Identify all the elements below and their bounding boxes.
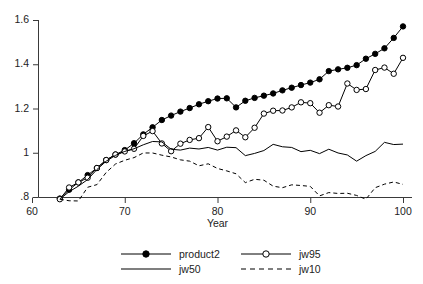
y-axis-ticks [33,21,39,198]
series-line-jw50 [60,141,403,199]
data-point-product2 [168,113,173,118]
x-tick-label: 60 [12,205,52,217]
data-series-group [57,24,406,202]
x-tick-label: 100 [383,205,423,217]
legend-row: product2 jw95 [120,246,350,261]
data-point-product2 [326,68,331,73]
data-point-jw95 [187,137,192,142]
data-point-jw95 [317,110,322,115]
data-point-product2 [363,56,368,61]
data-point-product2 [308,80,313,85]
data-point-jw95 [178,141,183,146]
data-point-product2 [252,95,257,100]
data-point-jw95 [345,81,350,86]
data-point-jw95 [196,135,201,140]
y-tick-label: .8 [0,190,29,202]
legend-sample-jw10 [240,263,292,275]
data-point-jw95 [270,108,275,113]
y-tick-label: 1.6 [0,13,29,25]
x-tick-label: 80 [198,205,238,217]
data-point-product2 [280,88,285,93]
chart-legend: product2 jw95 jw50 jw10 [120,246,350,276]
data-point-product2 [159,117,164,122]
data-point-jw95 [391,71,396,76]
data-point-jw95 [280,108,285,113]
data-point-product2 [400,24,405,29]
data-point-jw95 [224,134,229,139]
data-point-jw95 [326,102,331,107]
data-point-product2 [187,105,192,110]
data-point-jw95 [141,133,146,138]
x-axis-title: Year [188,217,248,229]
data-point-product2 [131,141,136,146]
data-point-product2 [382,46,387,51]
legend-sample-jw50 [120,263,172,275]
data-point-jw95 [66,185,71,190]
data-point-product2 [298,82,303,87]
data-point-product2 [233,105,238,110]
legend-entry-jw10[interactable]: jw10 [240,263,321,275]
data-point-product2 [178,109,183,114]
plot-area [0,0,423,284]
data-point-jw95 [233,128,238,133]
data-point-jw95 [243,135,248,140]
legend-label-product2: product2 [179,248,220,260]
legend-entry-jw50[interactable]: jw50 [120,263,240,275]
data-point-product2 [196,102,201,107]
data-point-product2 [206,99,211,104]
data-point-jw95 [252,125,257,130]
data-point-jw95 [261,111,266,116]
data-point-jw95 [289,105,294,110]
x-axis-ticks [33,198,404,204]
legend-entry-jw95[interactable]: jw95 [240,248,321,260]
data-point-jw95 [354,87,359,92]
data-point-product2 [354,62,359,67]
legend-label-jw50: jw50 [179,263,201,275]
data-point-jw95 [298,100,303,105]
data-point-jw95 [335,104,340,109]
y-tick-label: 1.4 [0,57,29,69]
data-point-jw95 [150,128,155,133]
data-point-product2 [289,85,294,90]
data-point-product2 [372,51,377,56]
data-point-product2 [261,93,266,98]
data-point-product2 [215,96,220,101]
data-point-jw95 [215,139,220,144]
series-line-product2 [60,26,403,198]
x-tick-label: 70 [105,205,145,217]
legend-sample-jw95 [240,248,292,260]
legend-entry-product2[interactable]: product2 [120,248,240,260]
data-point-jw95 [382,65,387,70]
y-tick-label: 1.2 [0,102,29,114]
series-line-jw95 [60,58,403,199]
data-point-jw95 [400,55,405,60]
data-point-product2 [317,77,322,82]
data-point-jw95 [363,86,368,91]
legend-sample-product2 [120,248,172,260]
legend-row: jw50 jw10 [120,261,350,276]
data-point-jw95 [206,124,211,129]
data-point-jw95 [372,67,377,72]
data-point-product2 [391,35,396,40]
legend-label-jw95: jw95 [299,248,321,260]
legend-label-jw10: jw10 [299,263,321,275]
data-point-product2 [345,65,350,70]
data-point-product2 [270,91,275,96]
data-point-product2 [335,67,340,72]
data-point-product2 [224,96,229,101]
x-tick-label: 90 [290,205,330,217]
series-line-jw10 [60,153,403,201]
y-tick-label: 1 [0,146,29,158]
data-point-jw95 [308,100,313,105]
data-point-product2 [243,98,248,103]
line-chart: .811.21.41.6 60708090100 Year product2 j… [0,0,423,284]
